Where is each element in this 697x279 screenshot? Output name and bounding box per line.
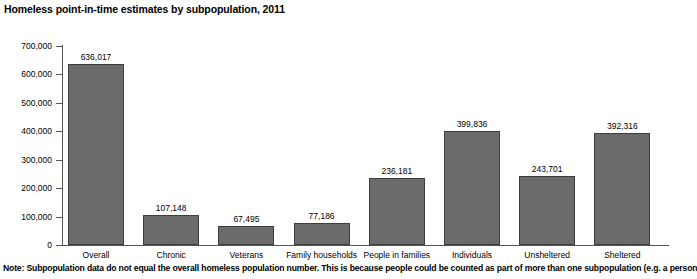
bar-value-label: 77,186 [277,212,367,221]
bar [594,133,650,245]
y-axis-label: 300,000 [0,156,52,165]
x-axis-label: Sheltered [572,250,672,260]
bar-value-label: 636,017 [51,53,141,62]
y-axis-label: 0 [0,241,52,250]
bar-value-label: 399,836 [427,120,517,129]
y-axis-label: 200,000 [0,184,52,193]
bar-value-label: 107,148 [126,204,216,213]
bar-value-label: 243,701 [502,165,592,174]
bar [294,223,350,245]
y-axis-label: 100,000 [0,213,52,222]
bar [143,215,199,245]
chart-note: Note: Subpopulation data do not equal th… [3,263,697,273]
plot-area: 636,017107,14867,49577,186236,181399,836… [62,46,668,245]
bar-value-label: 392,316 [577,122,667,131]
y-axis-label: 500,000 [0,99,52,108]
y-axis-tick [56,245,62,246]
bar [519,176,575,245]
y-axis-label: 400,000 [0,127,52,136]
x-axis-line [62,245,669,246]
bar [218,226,274,245]
bar [68,64,124,245]
y-axis-label: 600,000 [0,70,52,79]
page-title: Homeless point-in-time estimates by subp… [4,3,285,15]
bar [369,178,425,245]
bar [444,131,500,245]
y-axis-label: 700,000 [0,42,52,51]
bar-value-label: 236,181 [352,167,442,176]
